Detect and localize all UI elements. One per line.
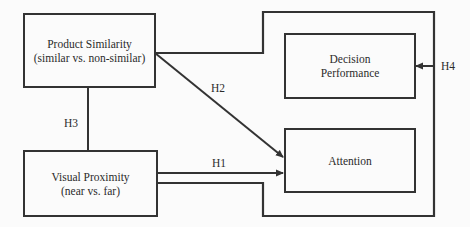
h1-label: H1 — [212, 157, 226, 169]
h2-label: H2 — [211, 82, 225, 94]
attention-box: Attention — [284, 128, 416, 193]
attention-title: Attention — [328, 154, 371, 168]
decision-performance-line1: Decision — [330, 52, 371, 66]
h2-arrow — [155, 53, 283, 157]
h3-label: H3 — [64, 117, 78, 129]
visual-proximity-box: Visual Proximity (near vs. far) — [23, 150, 158, 217]
decision-performance-line2: Performance — [321, 66, 380, 80]
product-similarity-box: Product Similarity (similar vs. non-simi… — [23, 13, 156, 88]
visual-proximity-title: Visual Proximity — [51, 170, 129, 184]
diagram-canvas: Product Similarity (similar vs. non-simi… — [0, 0, 470, 227]
h4-label: H4 — [441, 60, 455, 72]
product-similarity-subtitle: (similar vs. non-similar) — [34, 51, 145, 65]
decision-performance-box: Decision Performance — [284, 33, 416, 99]
visual-proximity-subtitle: (near vs. far) — [61, 184, 120, 198]
product-similarity-title: Product Similarity — [47, 37, 132, 51]
